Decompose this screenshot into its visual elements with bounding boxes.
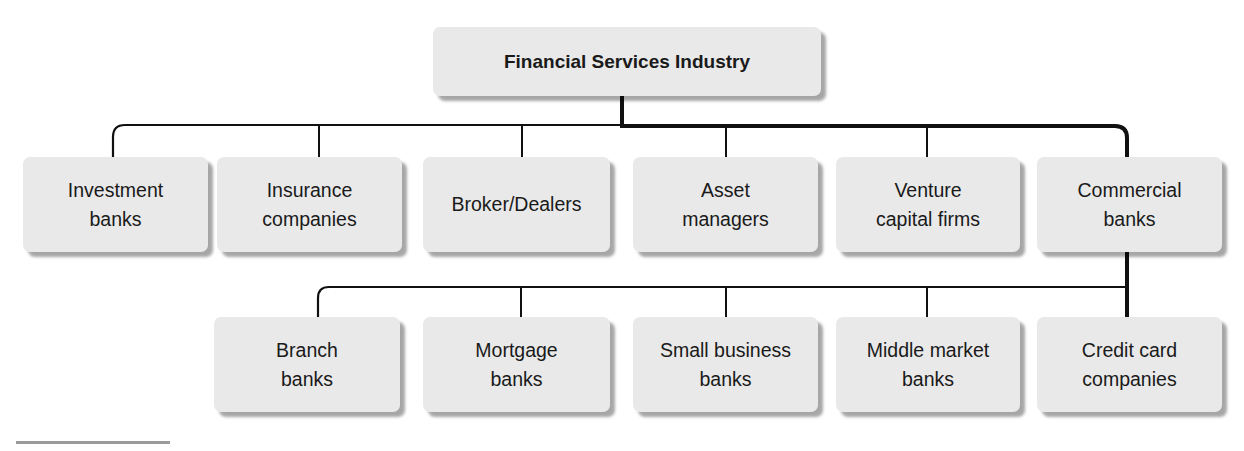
node-label: Commercial banks [1077, 176, 1181, 234]
node-label: Investment banks [68, 176, 163, 234]
footnote-divider [16, 441, 170, 444]
node-insurance-companies: Insurance companies [217, 157, 402, 252]
node-credit-card-companies: Credit card companies [1037, 317, 1222, 412]
node-middle-market-banks: Middle market banks [836, 317, 1020, 412]
node-investment-banks: Investment banks [23, 157, 208, 252]
node-venture-capital-firms: Venture capital firms [836, 157, 1020, 252]
node-label: Credit card companies [1082, 336, 1177, 394]
node-label: Insurance companies [262, 176, 356, 234]
node-small-business-banks: Small business banks [633, 317, 818, 412]
node-asset-managers: Asset managers [633, 157, 818, 252]
node-commercial-banks: Commercial banks [1037, 157, 1222, 252]
node-label: Venture capital firms [876, 176, 980, 234]
node-label: Branch banks [276, 336, 338, 394]
node-label: Mortgage banks [475, 336, 557, 394]
node-broker-dealers: Broker/Dealers [423, 157, 610, 252]
node-label: Broker/Dealers [451, 190, 581, 219]
node-label: Financial Services Industry [504, 47, 750, 76]
node-mortgage-banks: Mortgage banks [423, 317, 610, 412]
node-financial-services-industry: Financial Services Industry [433, 27, 821, 96]
node-branch-banks: Branch banks [214, 317, 400, 412]
node-label: Small business banks [660, 336, 791, 394]
node-label: Asset managers [682, 176, 769, 234]
node-label: Middle market banks [867, 336, 989, 394]
